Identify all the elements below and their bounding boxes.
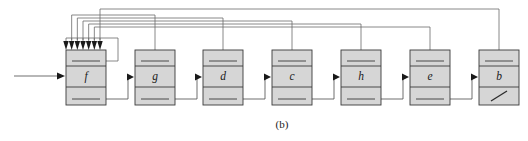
- list-node: e: [410, 50, 450, 105]
- next-pointer-arrowhead: [471, 74, 478, 81]
- header-arrow-cluster-layer: [63, 38, 102, 50]
- header-arrowhead: [86, 38, 91, 50]
- list-node: g: [135, 50, 175, 105]
- header-arrow-glyph: [97, 41, 102, 50]
- linked-list-figure: fgdcheb (b): [0, 0, 528, 141]
- list-head-entry-arrow: [14, 72, 65, 79]
- next-pointer-arrowhead: [264, 74, 271, 81]
- node-data-label: g: [152, 70, 158, 83]
- node-data-label: c: [289, 70, 294, 82]
- list-node: b: [479, 50, 519, 105]
- node-data-label: d: [220, 70, 226, 82]
- node-data-label: b: [496, 70, 502, 82]
- header-arrow-glyph: [92, 41, 97, 50]
- node-layer: fgdcheb: [66, 50, 519, 105]
- next-pointer-arrowhead: [402, 74, 409, 81]
- node-data-label: e: [427, 70, 432, 82]
- header-arrow-glyph: [75, 41, 80, 50]
- header-arrowhead: [75, 38, 80, 50]
- header-arrowhead: [97, 38, 102, 50]
- entry-arrow-layer: [14, 72, 65, 79]
- list-node: c: [272, 50, 312, 105]
- next-pointer-arrowhead: [195, 74, 202, 81]
- node-data-label: h: [358, 70, 364, 82]
- diagram-canvas: fgdcheb (b): [0, 0, 528, 141]
- next-pointer-arrowhead: [127, 74, 134, 81]
- list-node: f: [66, 50, 106, 105]
- header-arrow-glyph: [69, 41, 74, 50]
- header-arrowhead: [69, 38, 74, 50]
- header-arrowhead: [63, 38, 68, 50]
- entry-arrow-head: [57, 72, 65, 79]
- figure-caption: (b): [276, 118, 289, 131]
- header-arrow-glyph: [86, 41, 91, 50]
- next-pointer-arrowhead: [333, 74, 340, 81]
- header-arrow-glyph: [80, 41, 85, 50]
- header-arrow-glyph: [63, 41, 68, 50]
- list-node: h: [341, 50, 381, 105]
- list-node: d: [203, 50, 243, 105]
- header-arrowhead: [92, 38, 97, 50]
- header-arrowhead: [80, 38, 85, 50]
